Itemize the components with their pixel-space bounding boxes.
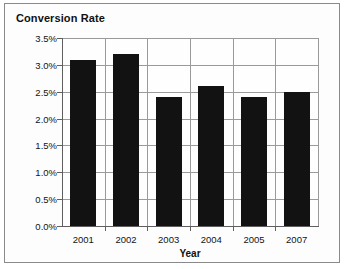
y-axis-tick-label: 0.5%	[35, 194, 57, 205]
x-axis-tick-label: 2007	[275, 234, 319, 245]
category-separator	[275, 38, 276, 226]
category-separator	[105, 38, 106, 226]
y-axis-tick-label: 1.5%	[35, 140, 57, 151]
plot-area	[62, 38, 318, 226]
x-axis-tick-label: 2002	[104, 234, 148, 245]
bar	[113, 54, 139, 226]
x-axis-tick-label: 2005	[232, 234, 276, 245]
y-axis-tick-mark	[57, 92, 62, 93]
bar	[284, 92, 310, 226]
y-axis-tick-mark	[57, 226, 62, 227]
y-axis-tick-label: 3.0%	[35, 59, 57, 70]
x-axis-tick-label: 2004	[189, 234, 233, 245]
x-axis-title: Year	[62, 248, 318, 259]
category-separator	[190, 38, 191, 226]
bar	[241, 97, 267, 226]
y-axis-line	[62, 38, 63, 227]
x-axis-tick-label: 2003	[147, 234, 191, 245]
chart-frame: Conversion Rate 0.0%0.5%1.0%1.5%2.0%2.5%…	[4, 3, 340, 263]
x-axis-tick-mark	[147, 226, 148, 231]
y-axis-tick-labels: 0.0%0.5%1.0%1.5%2.0%2.5%3.0%3.5%	[15, 4, 57, 269]
y-axis-tick-label: 2.0%	[35, 113, 57, 124]
y-axis-tick-mark	[57, 65, 62, 66]
y-axis-tick-label: 1.0%	[35, 167, 57, 178]
y-axis-tick-mark	[57, 145, 62, 146]
y-axis-tick-label: 2.5%	[35, 86, 57, 97]
y-axis-tick-mark	[57, 172, 62, 173]
y-axis-tick-mark	[57, 119, 62, 120]
y-axis-tick-label: 0.0%	[35, 221, 57, 232]
y-axis-tick-mark	[57, 38, 62, 39]
x-axis-tick-mark	[275, 226, 276, 231]
x-axis-tick-mark	[190, 226, 191, 231]
bar	[198, 86, 224, 226]
x-axis-tick-mark	[105, 226, 106, 231]
x-axis-tick-label: 2001	[61, 234, 105, 245]
plot-right-border	[318, 38, 319, 227]
y-axis-tick-mark	[57, 199, 62, 200]
category-separator	[147, 38, 148, 226]
y-axis-tick-label: 3.5%	[35, 33, 57, 44]
bar	[156, 97, 182, 226]
category-separator	[233, 38, 234, 226]
x-axis-tick-mark	[233, 226, 234, 231]
bar	[70, 60, 96, 227]
